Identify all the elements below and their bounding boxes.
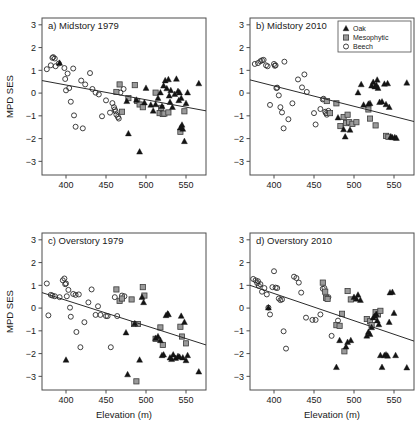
data-layer-d <box>250 269 414 370</box>
y-tick-label-a: 1 <box>31 66 36 76</box>
panel-c: 3210−1−2−3400450500550c) Overstory 1979 <box>26 233 206 405</box>
x-axis-title-d: Elevation (m) <box>304 409 360 420</box>
marker-oak <box>185 89 191 95</box>
marker-oak <box>125 371 131 377</box>
marker-beech <box>72 113 77 118</box>
series-oak-b <box>335 77 410 141</box>
series-oak-d <box>265 289 409 370</box>
marker-beech <box>318 312 323 317</box>
marker-beech <box>299 290 304 295</box>
marker-mesophytic <box>327 111 332 116</box>
marker-beech <box>300 85 305 90</box>
y-tick-label-d: 1 <box>239 281 244 291</box>
marker-oak <box>150 108 156 114</box>
legend: OakMesophyticBeech <box>338 21 411 52</box>
marker-mesophytic <box>345 288 350 293</box>
marker-beech <box>88 71 93 76</box>
marker-mesophytic <box>373 123 378 128</box>
plot-frame-d <box>250 233 414 390</box>
y-tick-label-b: −3 <box>234 157 244 167</box>
y-tick-label-a: 0 <box>31 88 36 98</box>
marker-beech <box>86 300 91 305</box>
marker-mesophytic <box>129 297 134 302</box>
marker-mesophytic <box>158 325 163 330</box>
marker-oak <box>141 299 147 305</box>
marker-oak <box>391 310 397 316</box>
marker-oak <box>335 114 341 120</box>
x-tick-label-b: 450 <box>306 180 321 190</box>
marker-oak <box>386 319 392 325</box>
marker-mesophytic <box>338 123 343 128</box>
x-tick-label-a: 450 <box>98 180 113 190</box>
marker-oak <box>173 76 179 82</box>
data-layer-b <box>250 57 414 140</box>
marker-beech <box>80 126 85 131</box>
marker-mesophytic <box>153 90 158 95</box>
marker-beech <box>83 82 88 87</box>
marker-oak <box>181 138 187 144</box>
data-layer-c <box>42 276 206 384</box>
panel-title-c: c) Overstory 1979 <box>48 235 124 246</box>
x-tick-label-b: 500 <box>346 180 361 190</box>
marker-beech <box>284 346 289 351</box>
y-tick-label-c: 3 <box>31 235 36 245</box>
x-tick-label-d: 450 <box>306 395 321 405</box>
marker-mesophytic <box>160 342 165 347</box>
marker-oak <box>178 313 184 319</box>
series-beech-d <box>251 269 341 351</box>
marker-oak <box>183 100 189 106</box>
marker-oak <box>57 60 63 66</box>
x-tick-label-c: 500 <box>138 395 153 405</box>
marker-beech <box>68 314 73 319</box>
marker-oak <box>355 292 361 298</box>
marker-mesophytic <box>117 82 122 87</box>
marker-beech <box>82 320 87 325</box>
y-tick-label-c: 1 <box>31 281 36 291</box>
y-tick-label-a: −1 <box>26 111 36 121</box>
y-tick-label-b: 3 <box>239 20 244 30</box>
four-panel-scatter-figure: 3210−1−2−3400450500550a) Midstory 197932… <box>0 0 420 431</box>
marker-beech <box>104 98 109 103</box>
marker-mesophytic <box>132 83 137 88</box>
marker-oak <box>374 77 380 83</box>
y-tick-label-a: −3 <box>26 157 36 167</box>
marker-beech <box>73 124 78 129</box>
marker-oak <box>337 337 343 343</box>
marker-oak <box>137 149 143 155</box>
panel-a: 3210−1−2−3400450500550a) Midstory 1979 <box>26 18 206 190</box>
marker-mesophytic <box>354 120 359 125</box>
y-tick-label-b: 1 <box>239 66 244 76</box>
y-tick-label-b: 2 <box>239 43 244 53</box>
marker-oak <box>404 365 410 371</box>
marker-beech <box>100 114 105 119</box>
marker-oak <box>63 357 69 363</box>
marker-oak <box>166 93 172 99</box>
x-tick-label-b: 550 <box>386 180 401 190</box>
marker-beech <box>78 345 83 350</box>
marker-mesophytic <box>140 285 145 290</box>
legend-label-beech: Beech <box>353 43 373 50</box>
marker-oak <box>179 122 185 128</box>
marker-beech <box>281 126 286 131</box>
x-axis-title-c: Elevation (m) <box>96 409 152 420</box>
marker-oak <box>155 95 161 101</box>
marker-beech <box>268 102 273 107</box>
marker-beech <box>116 116 121 121</box>
marker-beech <box>76 292 81 297</box>
marker-oak <box>125 130 131 136</box>
marker-beech <box>62 66 67 71</box>
marker-mesophytic <box>325 296 330 301</box>
x-tick-label-c: 550 <box>178 395 193 405</box>
marker-beech <box>290 101 295 106</box>
marker-beech <box>74 329 79 334</box>
marker-beech <box>302 72 307 77</box>
x-tick-label-b: 400 <box>266 180 281 190</box>
marker-mesophytic <box>323 289 328 294</box>
figure-container: 3210−1−2−3400450500550a) Midstory 197932… <box>0 0 420 431</box>
y-tick-label-d: 3 <box>239 235 244 245</box>
x-tick-label-c: 450 <box>98 395 113 405</box>
y-tick-label-d: −1 <box>234 326 244 336</box>
marker-mesophytic <box>134 379 139 384</box>
series-mesophytic-a <box>114 82 187 135</box>
marker-oak <box>379 364 385 370</box>
